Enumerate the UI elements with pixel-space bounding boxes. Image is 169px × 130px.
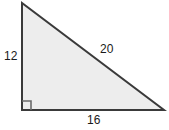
triangle-graphic	[0, 0, 169, 130]
triangle-shape	[22, 3, 164, 110]
triangle-figure: 12 20 16	[0, 0, 169, 130]
hypotenuse-length-label: 20	[100, 43, 114, 55]
horizontal-leg-length-label: 16	[87, 114, 101, 126]
vertical-leg-length-label: 12	[4, 50, 18, 62]
